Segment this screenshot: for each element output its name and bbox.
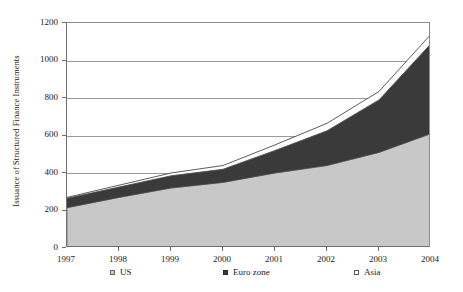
x-tick-label-2002: 2002 bbox=[304, 255, 348, 264]
legend-item-euro-zone[interactable]: Euro zone bbox=[223, 268, 270, 277]
square-filled-dark-gray-icon bbox=[223, 270, 228, 275]
legend-item-us[interactable]: US bbox=[110, 268, 132, 277]
chart-figure: Issuance of Structured Finance Instrumen… bbox=[0, 0, 463, 292]
y-tick-label-200: 200 bbox=[18, 205, 58, 214]
y-tick-label-400: 400 bbox=[18, 168, 58, 177]
stacked-area-series-group bbox=[67, 23, 430, 247]
square-filled-light-gray-icon bbox=[110, 270, 115, 275]
legend-label-asia: Asia bbox=[364, 268, 381, 277]
x-tick-mark-1999 bbox=[170, 247, 171, 251]
y-tick-mark-200 bbox=[62, 210, 66, 211]
plot-area bbox=[66, 22, 430, 247]
y-tick-mark-1000 bbox=[62, 60, 66, 61]
x-tick-mark-2003 bbox=[378, 247, 379, 251]
chart-legend: US Euro zone Asia bbox=[66, 268, 430, 282]
x-tick-mark-2001 bbox=[274, 247, 275, 251]
y-tick-mark-800 bbox=[62, 97, 66, 98]
x-tick-label-1998: 1998 bbox=[96, 255, 140, 264]
legend-item-asia[interactable]: Asia bbox=[354, 268, 381, 277]
y-tick-mark-400 bbox=[62, 172, 66, 173]
y-tick-mark-1200 bbox=[62, 22, 66, 23]
x-tick-label-1999: 1999 bbox=[148, 255, 192, 264]
x-tick-mark-2002 bbox=[326, 247, 327, 251]
y-tick-label-1200: 1200 bbox=[18, 18, 58, 27]
x-tick-mark-2000 bbox=[222, 247, 223, 251]
x-tick-label-2004: 2004 bbox=[408, 255, 452, 264]
legend-label-euro-zone: Euro zone bbox=[233, 268, 270, 277]
y-tick-label-1000: 1000 bbox=[18, 55, 58, 64]
y-tick-mark-0 bbox=[62, 247, 66, 248]
y-tick-label-800: 800 bbox=[18, 93, 58, 102]
x-tick-label-1997: 1997 bbox=[44, 255, 88, 264]
y-tick-mark-600 bbox=[62, 135, 66, 136]
x-tick-label-2003: 2003 bbox=[356, 255, 400, 264]
y-tick-label-600: 600 bbox=[18, 130, 58, 139]
x-tick-label-2001: 2001 bbox=[252, 255, 296, 264]
square-outline-white-icon bbox=[354, 270, 359, 275]
x-tick-label-2000: 2000 bbox=[200, 255, 244, 264]
y-tick-label-0: 0 bbox=[18, 243, 58, 252]
x-tick-mark-1998 bbox=[118, 247, 119, 251]
legend-label-us: US bbox=[120, 268, 132, 277]
